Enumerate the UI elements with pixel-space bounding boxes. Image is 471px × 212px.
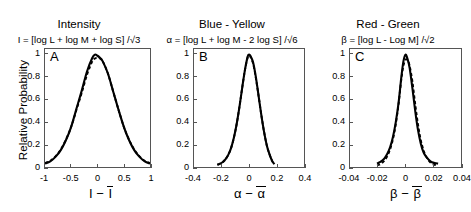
y-tick-label: 0.8 [317,72,345,81]
x-tick-mark [433,164,434,168]
x-tick-label: -1 [40,174,48,183]
x-tick-mark [193,164,194,168]
panel-a-formula: I = [log L + log M + log S] /√3 [0,34,158,45]
x-tick-mark [221,164,222,168]
y-tick-mark [193,168,197,169]
panel-b-title: Blue - Yellow [153,18,311,30]
panel-c-x-lead: β [390,186,397,201]
panel-a-x-axis-label: I − I [0,186,158,201]
panel-a-x-minus: − [96,186,104,201]
x-tick-label: 0 [95,174,100,183]
x-tick-label: -0.02 [367,174,388,183]
x-tick-label: 0.2 [271,174,284,183]
x-tick-mark [97,164,98,168]
x-tick-mark [462,164,463,168]
y-tick-mark [193,145,197,146]
y-tick-mark [349,145,353,146]
gaussian-fit-curve [377,59,438,165]
panel-c-formula: β = [log L - Log M] /√2 [309,34,467,45]
y-tick-mark [193,76,197,77]
panel-c-x-bar: β [412,186,421,201]
x-tick-label: -0.4 [185,174,201,183]
x-tick-label: -0.5 [63,174,79,183]
panel-a-curves [45,49,150,167]
y-tick-label: 1 [317,49,345,58]
x-tick-label: 0.5 [118,174,131,183]
y-tick-label: 0.8 [161,72,189,81]
panel-c-title: Red - Green [309,18,467,30]
x-tick-label: 0 [403,174,408,183]
y-tick-label: 0.8 [12,72,40,81]
y-tick-label: 0.4 [317,118,345,127]
y-tick-mark [44,53,48,54]
panel-b-x-bar: α [256,186,266,201]
distribution-curve [217,55,274,165]
distribution-curve [45,55,150,164]
panel-a-x-bar: I [107,186,113,201]
panel-a-title: Intensity [0,18,158,30]
y-tick-mark [349,53,353,54]
y-tick-label: 1 [12,49,40,58]
panel-b-x-lead: α [234,186,242,201]
y-tick-mark [44,122,48,123]
y-tick-mark [193,53,197,54]
panel-b-formula: α = [log L + log M - 2 log S] /√6 [153,34,311,45]
panel-c-x-axis-label: β − β [309,186,467,201]
x-tick-mark [70,164,71,168]
panel-a-x-lead: I [89,186,93,201]
x-tick-mark [349,164,350,168]
panel-a-plot-area: A [44,48,151,168]
y-tick-label: 0.6 [317,95,345,104]
x-tick-mark [151,164,152,168]
y-tick-label: 0.6 [12,95,40,104]
y-tick-label: 0 [12,163,40,172]
x-tick-mark [277,164,278,168]
x-tick-mark [124,164,125,168]
panel-b-x-minus: − [245,186,253,201]
panel-a: Intensity I = [log L + log M + log S] /√… [0,0,158,212]
x-tick-label: 0.04 [453,174,471,183]
x-tick-mark [44,164,45,168]
panel-b-x-axis-label: α − α [153,186,311,201]
panel-c: Red - Green β = [log L - Log M] /√2 C β … [309,0,467,212]
y-tick-mark [349,76,353,77]
panel-c-plot-area: C [349,48,462,168]
panel-b-plot-area: B [193,48,305,168]
panel-c-x-minus: − [401,186,409,201]
y-tick-mark [349,168,353,169]
x-tick-label: 0.02 [425,174,443,183]
x-tick-mark [249,164,250,168]
y-tick-mark [44,99,48,100]
y-tick-label: 0.6 [161,95,189,104]
x-tick-mark [377,164,378,168]
panel-b-curves [194,49,304,167]
y-tick-label: 0 [161,163,189,172]
y-tick-mark [44,168,48,169]
x-tick-label: 0 [246,174,251,183]
x-tick-label: -0.2 [213,174,229,183]
x-tick-mark [305,164,306,168]
gaussian-fit-curve [45,58,150,163]
y-tick-mark [44,76,48,77]
x-tick-label: -0.04 [339,174,360,183]
y-tick-mark [44,145,48,146]
y-tick-label: 0.4 [161,118,189,127]
y-tick-label: 0.4 [12,118,40,127]
distribution-curve [377,55,438,164]
y-tick-label: 0 [317,163,345,172]
y-tick-label: 0.2 [161,141,189,150]
gaussian-fit-curve [217,56,274,165]
y-tick-mark [193,122,197,123]
y-tick-mark [349,122,353,123]
panel-b: Blue - Yellow α = [log L + log M - 2 log… [153,0,311,212]
y-tick-mark [349,99,353,100]
y-tick-label: 1 [161,49,189,58]
y-tick-label: 0.2 [317,141,345,150]
y-tick-mark [193,99,197,100]
panel-c-curves [350,49,461,167]
y-tick-label: 0.2 [12,141,40,150]
x-tick-mark [405,164,406,168]
